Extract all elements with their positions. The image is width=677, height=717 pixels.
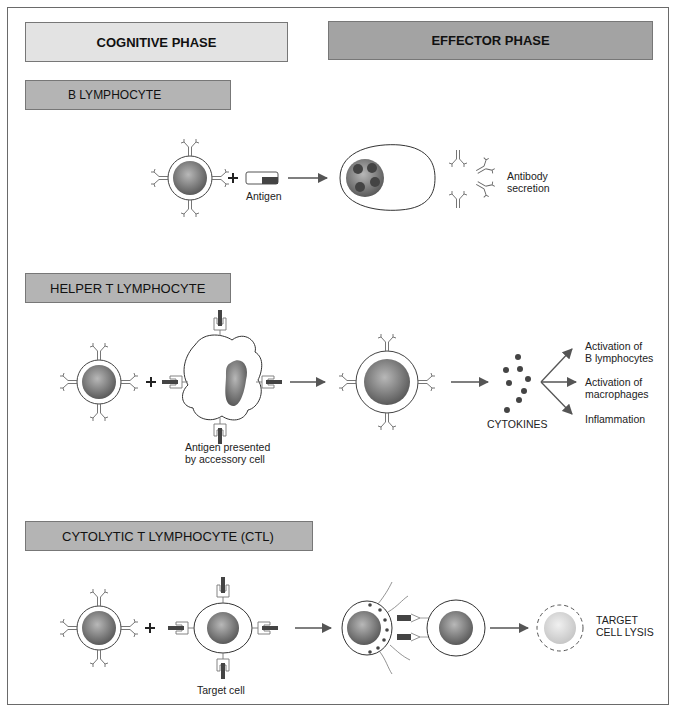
cytokine-branch-arrows bbox=[541, 349, 576, 414]
antigen-label: Antigen bbox=[246, 190, 282, 202]
outcome-b-activation-line2: B lymphocytes bbox=[585, 352, 653, 364]
activated-helper-t-cell bbox=[339, 334, 435, 430]
target-cell-lysis-line2: CELL LYSIS bbox=[596, 626, 654, 638]
diagram-graphics bbox=[0, 0, 677, 717]
lysed-target-cell bbox=[537, 605, 583, 651]
plus-sign bbox=[146, 377, 156, 387]
target-cell-label: Target cell bbox=[197, 684, 245, 696]
helper-t-cell bbox=[60, 343, 138, 421]
target-cell-lysis-line1: TARGET bbox=[596, 614, 638, 626]
secreted-antibodies bbox=[449, 150, 496, 208]
outcome-inflammation: Inflammation bbox=[585, 413, 645, 425]
target-cell bbox=[168, 577, 278, 679]
ctl-cell bbox=[60, 589, 138, 667]
plasma-cell bbox=[340, 145, 435, 211]
plus-sign bbox=[228, 173, 238, 183]
antibody-secretion-label-line1: Antibody bbox=[507, 170, 548, 182]
outcome-b-activation-line1: Activation of bbox=[585, 340, 642, 352]
b-lymphocyte-cell bbox=[151, 139, 229, 217]
outcome-macrophage-line2: macrophages bbox=[585, 388, 649, 400]
antigen-icon bbox=[246, 172, 278, 184]
cytokines-label: CYTOKINES bbox=[487, 418, 548, 430]
accessory-cell bbox=[162, 310, 282, 444]
ctl-target-conjugate bbox=[342, 582, 485, 674]
plus-sign bbox=[145, 623, 155, 633]
cytokine-dots bbox=[503, 354, 531, 413]
accessory-cell-label-line1: Antigen presented bbox=[185, 441, 270, 453]
accessory-cell-label-line2: by accessory cell bbox=[185, 453, 265, 465]
antibody-secretion-label-line2: secretion bbox=[507, 182, 550, 194]
outcome-macrophage-line1: Activation of bbox=[585, 376, 642, 388]
